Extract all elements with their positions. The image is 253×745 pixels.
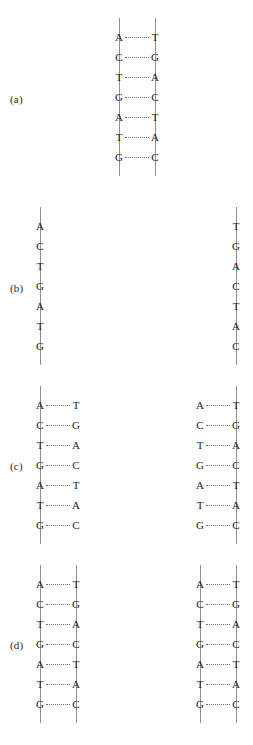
base-letter-left: C — [193, 597, 207, 611]
base-letter-left: T — [33, 498, 47, 512]
panel-label-a: (a) — [10, 94, 23, 105]
base-letter-left: C — [193, 418, 207, 432]
base-letter-left: G — [33, 697, 47, 711]
hydrogen-bond — [206, 584, 230, 586]
base-letter-left: T — [193, 617, 207, 631]
base-letter-right: A — [229, 617, 243, 631]
hydrogen-bond — [206, 425, 230, 427]
hydrogen-bond — [46, 505, 70, 507]
base-letter-right: A — [148, 130, 162, 144]
base-letter-left: A — [112, 30, 126, 44]
base-pair-row: G — [24, 279, 92, 293]
panel-label-d: (d) — [10, 640, 23, 651]
base-letter-left: G — [193, 697, 207, 711]
base-pair-row: C — [184, 279, 252, 293]
hydrogen-bond — [125, 97, 149, 99]
base-letter-left: A — [193, 657, 207, 671]
base-letter-left: G — [112, 90, 126, 104]
base-pair-row: T — [24, 319, 92, 333]
hydrogen-bond — [206, 525, 230, 527]
hydrogen-bond — [46, 644, 70, 646]
base-pair-row: GC — [24, 637, 92, 651]
base-pair-row: AT — [184, 478, 252, 492]
hydrogen-bond — [206, 684, 230, 686]
base-letter-left: A — [33, 398, 47, 412]
hydrogen-bond — [125, 137, 149, 139]
base-letter-right: A — [69, 677, 83, 691]
hydrogen-bond — [206, 704, 230, 706]
base-letter-left: C — [112, 50, 126, 64]
base-letter-right: C — [148, 90, 162, 104]
base-letter-left: A — [33, 577, 47, 591]
base-letter-right: C — [229, 697, 243, 711]
base-pair-row: G — [184, 239, 252, 253]
dna-replication-figure: (a)ATCGTAGCATTAGC(b)ACTGATGTGACTAC(c)ATC… — [0, 0, 253, 745]
hydrogen-bond — [206, 604, 230, 606]
base-pair-row: AT — [24, 478, 92, 492]
base-letter-left: G — [112, 150, 126, 164]
hydrogen-bond — [46, 604, 70, 606]
base-letter-left: A — [33, 657, 47, 671]
base-pair-row: AT — [103, 110, 171, 124]
base-letter-right: T — [148, 30, 162, 44]
base-pair-row: TA — [103, 130, 171, 144]
base-letter-left: G — [33, 279, 47, 293]
hydrogen-bond — [206, 405, 230, 407]
base-letter-right: A — [148, 70, 162, 84]
base-pair-row: TA — [184, 438, 252, 452]
hydrogen-bond — [125, 157, 149, 159]
hydrogen-bond — [46, 405, 70, 407]
base-letter-left: T — [33, 677, 47, 691]
panel-label-b: (b) — [10, 283, 23, 294]
hydrogen-bond — [206, 644, 230, 646]
base-pair-row: GC — [184, 518, 252, 532]
base-pair-row: T — [24, 259, 92, 273]
base-pair-row: AT — [103, 30, 171, 44]
base-letter-left: G — [193, 518, 207, 532]
base-pair-row: AT — [184, 398, 252, 412]
base-letter-left: C — [33, 418, 47, 432]
separated-strand-left: ACTGATG — [24, 207, 92, 365]
base-letter-left: A — [112, 110, 126, 124]
base-letter-right: C — [69, 458, 83, 472]
daughter-duplex-right: ATCGTAGCATTAGC — [184, 565, 252, 723]
base-letter-left: G — [33, 518, 47, 532]
base-letter-right: T — [229, 299, 243, 313]
base-pair-row: T — [184, 219, 252, 233]
hydrogen-bond — [46, 584, 70, 586]
hydrogen-bond — [46, 425, 70, 427]
base-pair-row: AT — [184, 657, 252, 671]
base-pair-row: A — [184, 259, 252, 273]
hydrogen-bond — [46, 684, 70, 686]
base-pair-row: TA — [24, 677, 92, 691]
pairing-group-left: ATCGTAGCATTAGC — [24, 386, 92, 544]
base-letter-left: G — [193, 458, 207, 472]
base-pair-row: GC — [24, 697, 92, 711]
base-letter-right: T — [229, 398, 243, 412]
hydrogen-bond — [46, 485, 70, 487]
base-pair-row: GC — [184, 637, 252, 651]
base-letter-left: C — [33, 597, 47, 611]
base-letter-left: G — [193, 637, 207, 651]
separated-strand-right: TGACTAC — [184, 207, 252, 365]
base-pair-row: CG — [24, 418, 92, 432]
base-letter-left: T — [112, 130, 126, 144]
base-pair-row: GC — [184, 458, 252, 472]
base-pair-row: A — [24, 299, 92, 313]
base-pair-row: AT — [184, 577, 252, 591]
hydrogen-bond — [46, 664, 70, 666]
base-pair-row: C — [24, 239, 92, 253]
base-letter-left: T — [33, 259, 47, 273]
base-letter-right: G — [69, 418, 83, 432]
base-letter-right: T — [229, 478, 243, 492]
base-pair-row: G — [24, 339, 92, 353]
base-letter-left: A — [33, 478, 47, 492]
base-letter-right: A — [69, 617, 83, 631]
base-letter-left: T — [33, 438, 47, 452]
hydrogen-bond — [206, 505, 230, 507]
base-letter-right: C — [69, 637, 83, 651]
base-letter-left: A — [193, 398, 207, 412]
base-pair-row: GC — [24, 458, 92, 472]
base-pair-row: TA — [184, 677, 252, 691]
base-letter-right: C — [229, 339, 243, 353]
